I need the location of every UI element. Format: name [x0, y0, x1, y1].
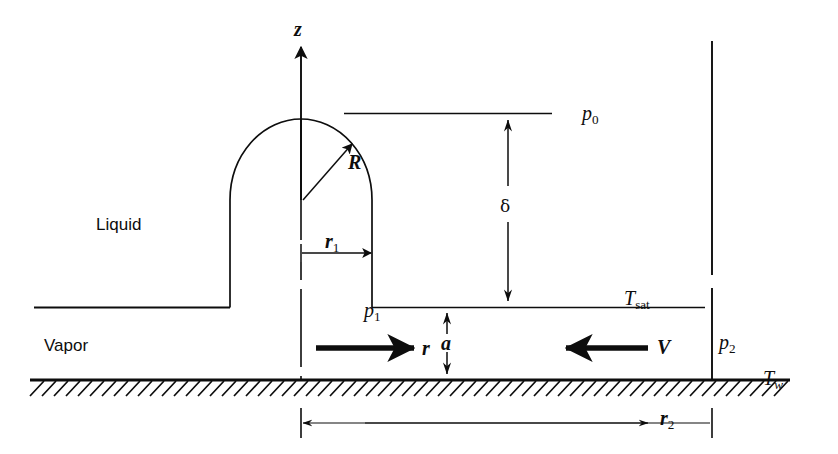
label-t-sat-base: T — [624, 287, 635, 309]
label-a-gap: a — [441, 333, 451, 353]
label-p1-base: p — [364, 299, 374, 321]
label-p2-sub: 2 — [729, 341, 736, 356]
heated-wall — [30, 380, 790, 396]
label-p0-base: p — [582, 102, 592, 124]
label-r2-sub: 2 — [668, 417, 675, 432]
label-region-vapor: Vapor — [44, 337, 88, 354]
r2-dimension — [301, 408, 712, 438]
label-p2: p2 — [719, 332, 736, 355]
radius-R-leader — [303, 144, 352, 200]
label-radial-r: r — [422, 338, 430, 358]
label-t-sat: Tsat — [624, 288, 650, 311]
label-p0: p0 — [582, 103, 599, 126]
label-t-wall-sub: w — [774, 377, 783, 392]
label-r2-base: r — [660, 407, 668, 429]
label-delta: δ — [500, 198, 510, 215]
label-t-wall: Tw — [763, 368, 783, 391]
label-t-sat-sub: sat — [635, 297, 650, 312]
label-velocity-V: V — [657, 337, 670, 357]
label-z-axis: z — [294, 19, 302, 39]
label-region-liquid: Liquid — [96, 216, 141, 233]
label-r2: r2 — [660, 408, 674, 431]
label-r1: r1 — [325, 231, 339, 254]
label-r1-sub: 1 — [333, 240, 340, 255]
label-p1-sub: 1 — [374, 309, 381, 324]
figure-container: z R r1 p0 p1 p2 δ a r V r2 Tsat Tw Liqui… — [0, 0, 838, 454]
label-p1: p1 — [364, 300, 381, 323]
label-t-wall-base: T — [763, 367, 774, 389]
label-p0-sub: 0 — [592, 112, 599, 127]
label-p2-base: p — [719, 331, 729, 353]
wall-hatching — [30, 381, 788, 396]
label-radius-R: R — [348, 152, 361, 172]
label-r1-base: r — [325, 230, 333, 252]
